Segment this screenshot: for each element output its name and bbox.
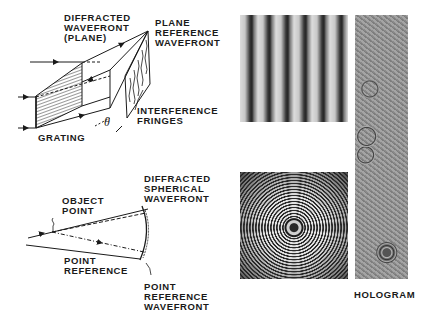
plane-reference-wavefront-label: PLANE REFERENCE WAVEFRONT	[155, 18, 220, 48]
grating-diagram	[18, 31, 150, 132]
interference-fringes-photo	[240, 15, 348, 122]
object-point-label: OBJECT POINT	[62, 196, 104, 216]
interference-fringes-label: INTERFERENCE FRINGES	[137, 106, 218, 126]
point-reference-label: POINT REFERENCE	[64, 256, 128, 276]
zone-plate-photo	[240, 172, 348, 279]
point-reference-wavefront-label: POINT REFERENCE WAVEFRONT	[144, 282, 209, 312]
diffracted-wavefront-label: DIFFRACTED WAVEFRONT (PLANE)	[64, 13, 131, 43]
diffracted-spherical-wavefront-label: DIFFRACTED SPHERICAL WAVEFRONT	[144, 174, 211, 204]
grating-label: GRATING	[38, 133, 85, 143]
hologram-caption: HOLOGRAM	[354, 290, 415, 300]
hologram-photo	[355, 15, 408, 279]
theta-symbol: θ	[104, 117, 111, 127]
